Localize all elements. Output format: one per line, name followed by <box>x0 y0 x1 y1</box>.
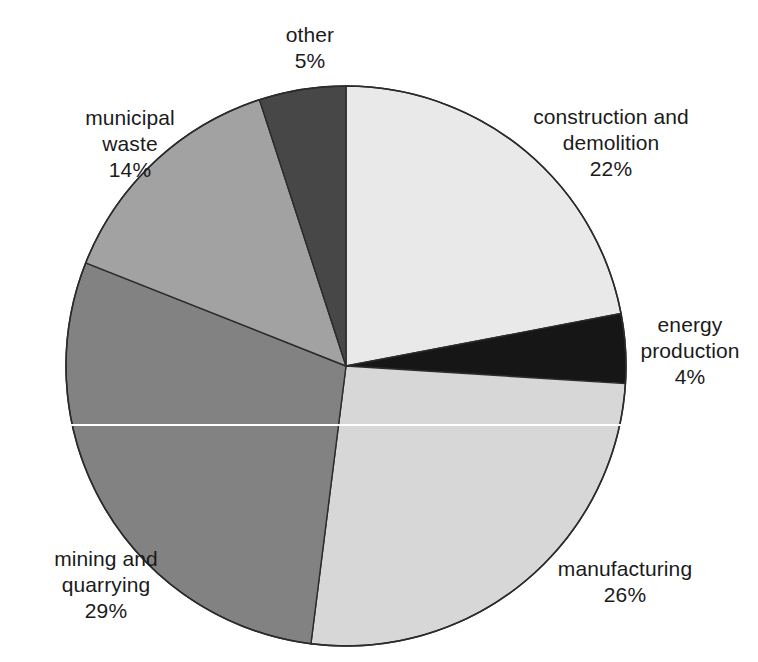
slice-label-construction-name: construction and <box>486 104 736 130</box>
slice-label-mining-percent: 29% <box>6 598 206 624</box>
slice-label-mining-name-line2: quarrying <box>6 572 206 598</box>
slice-label-construction-name-line2: demolition <box>486 130 736 156</box>
slice-label-energy-name: energy <box>622 312 758 338</box>
slice-label-energy-percent: 4% <box>622 364 758 390</box>
slice-label-other-name: other <box>230 22 390 48</box>
slice-label-mining-and-quarrying: mining and quarrying 29% <box>6 546 206 624</box>
horizontal-white-rule <box>0 424 758 426</box>
slice-label-municipal-waste-percent: 14% <box>32 157 228 183</box>
pie-chart: other 5% municipal waste 14% constructio… <box>0 0 758 662</box>
slice-label-manufacturing-name: manufacturing <box>510 556 740 582</box>
slice-label-other-percent: 5% <box>230 48 390 74</box>
slice-label-energy-production: energy production 4% <box>622 312 758 390</box>
slice-label-manufacturing-percent: 26% <box>510 582 740 608</box>
slice-label-manufacturing: manufacturing 26% <box>510 556 740 608</box>
slice-label-construction-percent: 22% <box>486 156 736 182</box>
slice-label-mining-name: mining and <box>6 546 206 572</box>
slice-label-municipal-waste-name: municipal <box>32 105 228 131</box>
slice-label-energy-name-line2: production <box>622 338 758 364</box>
slice-label-other: other 5% <box>230 22 390 74</box>
slice-label-construction-and-demolition: construction and demolition 22% <box>486 104 736 182</box>
slice-label-municipal-waste-name-line2: waste <box>32 131 228 157</box>
slice-label-municipal-waste: municipal waste 14% <box>32 105 228 183</box>
